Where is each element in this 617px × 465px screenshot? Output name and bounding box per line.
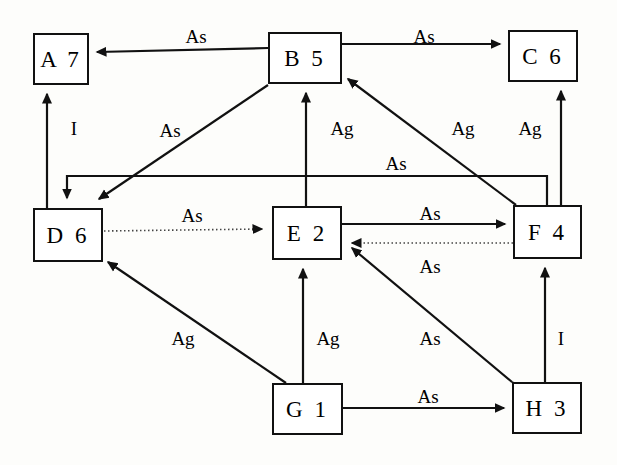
node-B[interactable]: B 5	[268, 32, 342, 84]
node-A-label: A 7	[40, 48, 82, 71]
node-E[interactable]: E 2	[272, 206, 342, 260]
node-H-label: H 3	[526, 397, 569, 420]
node-E-label: E 2	[287, 222, 327, 245]
edge-g-d	[108, 262, 286, 383]
node-C[interactable]: C 6	[508, 30, 578, 82]
node-G[interactable]: G 1	[272, 383, 343, 435]
node-D-label: D 6	[47, 224, 90, 247]
edge-label-f-d: As	[385, 154, 406, 173]
edge-label-f-c: Ag	[518, 119, 541, 138]
edge-label-e-b: Ag	[330, 119, 353, 138]
edge-label-d-e: As	[181, 206, 202, 225]
node-B-label: B 5	[284, 47, 326, 70]
edge-label-f-e: As	[419, 257, 440, 276]
node-H[interactable]: H 3	[512, 382, 582, 434]
node-G-label: G 1	[286, 398, 329, 421]
edge-b-a	[97, 48, 268, 52]
edge-label-f-b: Ag	[451, 119, 474, 138]
edge-f-b	[348, 79, 516, 205]
node-F-label: F 4	[528, 221, 567, 244]
edge-label-b-d: As	[159, 121, 180, 140]
edge-label-g-e: Ag	[316, 329, 339, 348]
edge-label-g-h: As	[417, 387, 438, 406]
edge-label-d-a: I	[71, 119, 77, 138]
edge-label-g-d: Ag	[171, 329, 194, 348]
node-C-label: C 6	[522, 45, 564, 68]
edge-label-h-f: I	[558, 329, 564, 348]
edge-label-b-a: As	[185, 27, 206, 46]
node-A[interactable]: A 7	[33, 33, 89, 85]
edge-b-d	[99, 85, 268, 199]
node-F[interactable]: F 4	[513, 205, 582, 259]
diagram-canvas: A 7 B 5 C 6 D 6 E 2 F 4 G 1 H 3 As As I …	[0, 0, 617, 465]
edge-d-e	[104, 229, 262, 231]
edge-label-b-c: As	[413, 27, 434, 46]
edge-label-h-e: As	[419, 329, 440, 348]
node-D[interactable]: D 6	[33, 208, 103, 262]
edge-label-e-f: As	[419, 204, 440, 223]
